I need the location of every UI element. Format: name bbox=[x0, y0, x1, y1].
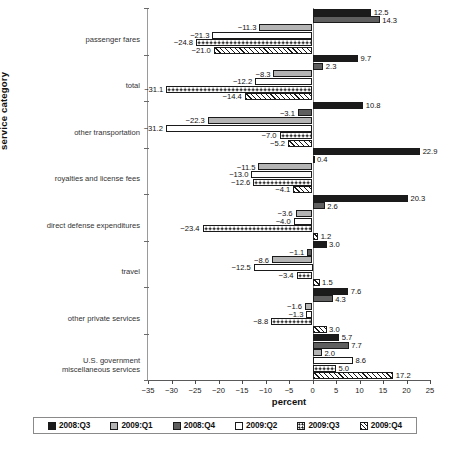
legend-item-2009-Q3[interactable]: 2009:Q3 bbox=[297, 421, 339, 430]
bar-value-label: 22.9 bbox=[423, 148, 438, 155]
bar-2009-Q2-8 bbox=[313, 357, 353, 364]
bar-value-label: −4.1 bbox=[259, 186, 290, 193]
bar-value-label: 0.4 bbox=[317, 156, 328, 163]
bar-value-label: 2.6 bbox=[327, 203, 338, 210]
x-axis-tick bbox=[313, 380, 314, 384]
bar-value-label: 12.5 bbox=[374, 9, 389, 16]
x-axis-tick bbox=[195, 380, 196, 384]
bar-value-label: 2.0 bbox=[324, 350, 335, 357]
bar-value-label: −23.4 bbox=[169, 225, 200, 232]
legend-item-2009-Q4[interactable]: 2009:Q4 bbox=[360, 421, 402, 430]
y-axis-tick bbox=[144, 241, 149, 242]
bar-value-label: −24.8 bbox=[162, 39, 193, 46]
legend-item-2008-Q4[interactable]: 2008:Q4 bbox=[173, 421, 215, 430]
y-axis-tick bbox=[144, 334, 149, 335]
bar-2009-Q2-3 bbox=[166, 125, 313, 132]
bar-2008-Q3-6 bbox=[313, 241, 327, 248]
x-axis-tick-label: −30 bbox=[160, 386, 184, 395]
legend-swatch-icon bbox=[235, 422, 243, 430]
bar-2009-Q4-5 bbox=[313, 233, 319, 240]
bar-value-label: −21.0 bbox=[180, 47, 211, 54]
bar-chart: service category percent −35−30−25−20−15… bbox=[0, 0, 450, 456]
y-axis-tick-label: direct defense expenditures bbox=[0, 221, 140, 230]
bar-2008-Q3-5 bbox=[313, 195, 408, 202]
bar-2009-Q1-1 bbox=[259, 24, 312, 31]
legend-label: 2009:Q4 bbox=[371, 421, 402, 430]
bar-value-label: 2.3 bbox=[326, 63, 337, 70]
bar-2008-Q3-3 bbox=[313, 102, 364, 109]
bar-value-label: 7.7 bbox=[351, 342, 362, 349]
y-axis-tick-label: other transportation bbox=[0, 128, 140, 137]
x-axis-tick-label: −5 bbox=[277, 386, 301, 395]
y-axis-tick-label: passenger fares bbox=[0, 35, 140, 44]
x-axis-title: percent bbox=[148, 396, 430, 407]
x-axis-tick bbox=[383, 380, 384, 384]
bar-2009-Q3-6 bbox=[297, 272, 313, 279]
bar-2009-Q2-2 bbox=[255, 78, 312, 85]
bar-2009-Q4-8 bbox=[313, 372, 394, 379]
bar-2009-Q4-3 bbox=[288, 140, 312, 147]
x-axis-tick bbox=[219, 380, 220, 384]
bar-2009-Q1-6 bbox=[272, 256, 312, 263]
legend-item-2009-Q1[interactable]: 2009:Q1 bbox=[110, 421, 152, 430]
x-axis-tick bbox=[360, 380, 361, 384]
bar-2009-Q4-1 bbox=[214, 47, 313, 54]
bar-2008-Q4-2 bbox=[313, 63, 324, 70]
legend-label: 2009:Q1 bbox=[121, 421, 152, 430]
legend-item-2009-Q2[interactable]: 2009:Q2 bbox=[235, 421, 277, 430]
bar-value-label: 3.0 bbox=[329, 241, 340, 248]
chart-legend: 2008:Q32009:Q12008:Q42009:Q22009:Q32009:… bbox=[33, 417, 417, 434]
x-axis-tick-label: −15 bbox=[230, 386, 254, 395]
y-axis-tick bbox=[144, 148, 149, 149]
x-axis-tick bbox=[407, 380, 408, 384]
legend-item-2008-Q3[interactable]: 2008:Q3 bbox=[48, 421, 90, 430]
legend-swatch-icon bbox=[110, 422, 118, 430]
x-axis-tick-label: 10 bbox=[348, 386, 372, 395]
bar-value-label: −4.0 bbox=[260, 218, 291, 225]
legend-swatch-icon bbox=[297, 422, 305, 430]
x-axis-tick-label: 0 bbox=[301, 386, 325, 395]
bar-2009-Q3-8 bbox=[313, 365, 337, 372]
x-axis-tick bbox=[289, 380, 290, 384]
x-axis-tick-label: 25 bbox=[418, 386, 442, 395]
bar-2008-Q4-7 bbox=[313, 295, 333, 302]
x-axis-tick-label: 15 bbox=[371, 386, 395, 395]
bar-2008-Q4-1 bbox=[313, 16, 380, 23]
bar-2009-Q3-7 bbox=[271, 318, 312, 325]
bar-value-label: −22.3 bbox=[174, 117, 205, 124]
bar-value-label: −11.3 bbox=[225, 24, 256, 31]
bar-2009-Q1-8 bbox=[313, 349, 322, 356]
y-axis-tick bbox=[144, 55, 149, 56]
bar-2009-Q3-5 bbox=[203, 225, 313, 232]
bar-value-label: 9.7 bbox=[361, 55, 372, 62]
x-axis-tick bbox=[336, 380, 337, 384]
bar-value-label: −1.3 bbox=[272, 311, 303, 318]
bar-2009-Q2-1 bbox=[212, 32, 312, 39]
y-axis-tick-label: other private services bbox=[0, 314, 140, 323]
bar-value-label: −3.1 bbox=[264, 110, 295, 117]
plot-area: −35−30−25−20−15−10−50510152025passenger … bbox=[148, 8, 430, 380]
y-axis-tick bbox=[144, 194, 149, 195]
y-axis-tick bbox=[144, 101, 149, 102]
bar-value-label: −31.2 bbox=[132, 125, 163, 132]
bar-2009-Q1-7 bbox=[305, 303, 313, 310]
bar-2008-Q3-4 bbox=[313, 148, 421, 155]
bar-2009-Q4-6 bbox=[313, 279, 320, 286]
bar-value-label: 10.8 bbox=[366, 102, 381, 109]
bar-2009-Q4-2 bbox=[245, 93, 313, 100]
bar-value-label: −12.5 bbox=[220, 264, 251, 271]
bar-value-label: −31.1 bbox=[132, 86, 163, 93]
bar-value-label: −1.1 bbox=[273, 249, 304, 256]
x-axis-tick bbox=[430, 380, 431, 384]
bar-2008-Q4-8 bbox=[313, 342, 349, 349]
legend-swatch-icon bbox=[48, 422, 56, 430]
bar-2009-Q2-7 bbox=[306, 311, 312, 318]
bar-2008-Q3-7 bbox=[313, 288, 349, 295]
x-axis-tick-label: −20 bbox=[207, 386, 231, 395]
x-axis-tick bbox=[242, 380, 243, 384]
legend-label: 2009:Q3 bbox=[308, 421, 339, 430]
y-axis-tick-label: royalties and license fees bbox=[0, 174, 140, 183]
x-axis-tick-label: 5 bbox=[324, 386, 348, 395]
bar-2008-Q4-6 bbox=[307, 249, 312, 256]
bar-2009-Q2-6 bbox=[254, 264, 313, 271]
